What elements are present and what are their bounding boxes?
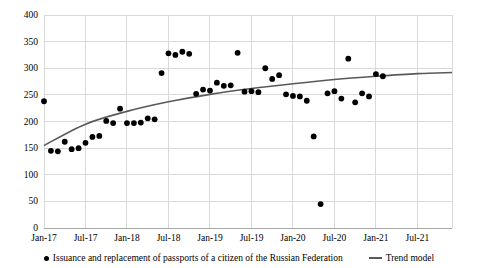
y-axis-tick-label: 200 [4, 117, 38, 127]
chart-legend: Issuance and replacement of passports of… [0, 250, 478, 266]
data-point [69, 146, 75, 152]
data-point [117, 106, 123, 112]
data-point [83, 140, 89, 146]
data-point [297, 94, 303, 100]
data-point [48, 148, 54, 154]
data-point [345, 56, 351, 62]
data-point [269, 76, 275, 82]
y-axis-tick-label: 400 [4, 10, 38, 20]
data-point [332, 88, 338, 94]
data-point [110, 120, 116, 126]
data-point [338, 96, 344, 102]
data-point [262, 65, 268, 71]
legend-trend-line-icon [369, 257, 382, 260]
data-point [186, 51, 192, 57]
data-point [76, 145, 82, 151]
data-point [200, 87, 206, 93]
y-axis-tick-label: 50 [4, 196, 38, 206]
y-axis-tick-label: 100 [4, 170, 38, 180]
chart-plot-area [0, 0, 478, 268]
y-axis-tick-label: 300 [4, 63, 38, 73]
data-point [290, 93, 296, 99]
data-point [325, 90, 331, 96]
data-point [311, 134, 317, 140]
data-point [380, 73, 386, 79]
legend-label-trend: Trend model [386, 253, 434, 264]
y-axis-tick-label: 250 [4, 90, 38, 100]
data-point [235, 50, 241, 56]
data-point [62, 139, 68, 145]
data-point [207, 88, 213, 94]
data-point [145, 115, 151, 121]
trend-line-path [44, 73, 452, 146]
data-point [359, 90, 365, 96]
data-point [249, 88, 255, 94]
data-point [103, 118, 109, 124]
trend-line [44, 73, 452, 146]
legend-item-series: Issuance and replacement of passports of… [44, 253, 343, 264]
data-point [166, 50, 172, 56]
data-point [172, 52, 178, 58]
data-point [55, 148, 61, 154]
x-axis-tick-label: Jul-21 [391, 233, 443, 243]
data-point [221, 83, 227, 89]
data-point [318, 201, 324, 207]
data-point [152, 116, 158, 122]
data-point [228, 82, 234, 88]
y-axis-tick-label: 0 [4, 223, 38, 233]
data-point [304, 98, 310, 104]
data-point [90, 134, 96, 140]
data-point [124, 120, 130, 126]
data-point [131, 120, 137, 126]
data-point [179, 49, 185, 55]
data-point [255, 89, 261, 95]
data-point [283, 91, 289, 97]
data-point [159, 70, 165, 76]
legend-item-trend: Trend model [369, 253, 434, 264]
data-point [242, 89, 248, 95]
data-point [352, 99, 358, 105]
y-axis-tick-label: 150 [4, 143, 38, 153]
data-point [41, 98, 47, 104]
data-point [214, 80, 220, 86]
data-point [366, 94, 372, 100]
data-point [138, 120, 144, 126]
data-point [193, 91, 199, 97]
data-point [96, 133, 102, 139]
legend-label-series: Issuance and replacement of passports of… [53, 253, 343, 264]
data-point [373, 71, 379, 77]
legend-marker-dot-icon [44, 256, 49, 261]
data-point [276, 72, 282, 78]
y-axis-tick-label: 350 [4, 37, 38, 47]
chart-container: 400350300250200150100500 Jan-17Jul-17Jan… [0, 0, 478, 268]
